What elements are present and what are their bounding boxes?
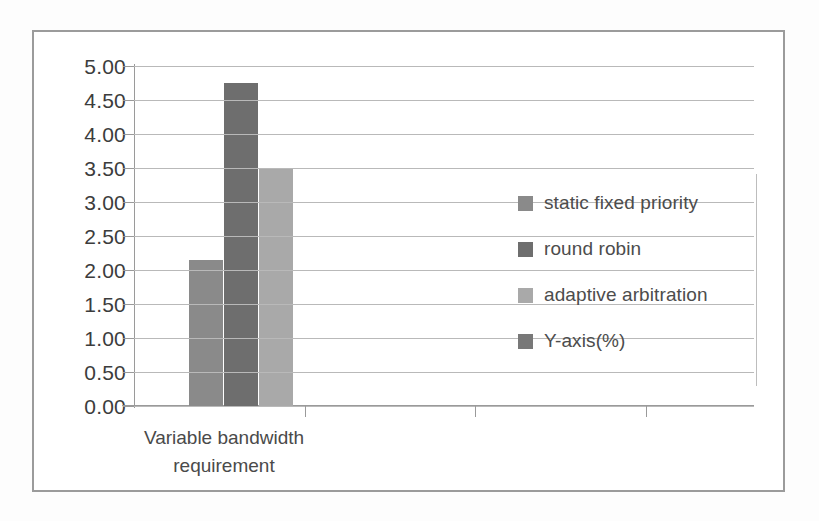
y-axis-tick-mark [123, 270, 134, 271]
y-axis-tick-label: 3.00 [48, 192, 126, 213]
legend-label: adaptive arbitration [544, 284, 708, 306]
gridline [134, 372, 754, 373]
y-axis-tick-mark [123, 168, 134, 169]
chart-legend: static fixed priorityround robinadaptive… [518, 180, 756, 364]
x-axis-tick-mark [475, 406, 476, 417]
chart-frame: 5.004.504.003.503.002.502.001.501.000.50… [32, 30, 785, 492]
x-axis-category-line: Variable bandwidth [94, 424, 354, 452]
y-axis-tick-mark [123, 100, 134, 101]
legend-swatch-icon [518, 334, 533, 349]
bar-adaptive-arbitration [259, 169, 293, 406]
y-axis-tick-label: 0.00 [48, 396, 126, 417]
gridline [134, 134, 754, 135]
y-axis-tick-mark [123, 202, 134, 203]
y-axis-tick-mark [123, 372, 134, 373]
y-axis-tick-label: 4.50 [48, 90, 126, 111]
y-axis-tick-labels: 5.004.504.003.503.002.502.001.501.000.50… [48, 66, 126, 406]
y-axis-tick-mark [123, 338, 134, 339]
legend-swatch-icon [518, 196, 533, 211]
bar-round-robin [224, 83, 258, 406]
y-axis-tick-label: 1.00 [48, 328, 126, 349]
legend-item[interactable]: Y-axis(%) [518, 318, 756, 364]
chart-screenshot: 5.004.504.003.503.002.502.001.501.000.50… [0, 0, 819, 521]
y-axis-tick-mark [123, 304, 134, 305]
gridline [134, 406, 754, 407]
legend-item[interactable]: static fixed priority [518, 180, 756, 226]
y-axis-tick-label: 1.50 [48, 294, 126, 315]
y-axis-tick-mark [123, 406, 134, 407]
legend-label: Y-axis(%) [544, 330, 626, 352]
gridline [134, 100, 754, 101]
legend-item[interactable]: round robin [518, 226, 756, 272]
y-axis-tick-label: 3.50 [48, 158, 126, 179]
y-axis-tick-mark [123, 236, 134, 237]
y-axis-tick-label: 5.00 [48, 56, 126, 77]
y-axis-tick-label: 0.50 [48, 362, 126, 383]
legend-label: static fixed priority [544, 192, 698, 214]
legend-label: round robin [544, 238, 641, 260]
gridline [134, 66, 754, 67]
x-axis-tick-mark [305, 406, 306, 417]
x-axis-category-label: Variable bandwidthrequirement [94, 424, 354, 479]
y-axis-tick-label: 2.50 [48, 226, 126, 247]
y-axis-tick-mark [123, 66, 134, 67]
x-axis-tick-mark [646, 406, 647, 417]
legend-swatch-icon [518, 242, 533, 257]
y-axis-tick-label: 4.00 [48, 124, 126, 145]
gridline [134, 168, 754, 169]
bar-static-fixed-priority [189, 260, 223, 406]
legend-swatch-icon [518, 288, 533, 303]
y-axis-tick-mark [123, 134, 134, 135]
legend-divider [756, 174, 757, 386]
x-axis-category-line: requirement [94, 452, 354, 480]
y-axis-tick-label: 2.00 [48, 260, 126, 281]
legend-item[interactable]: adaptive arbitration [518, 272, 756, 318]
